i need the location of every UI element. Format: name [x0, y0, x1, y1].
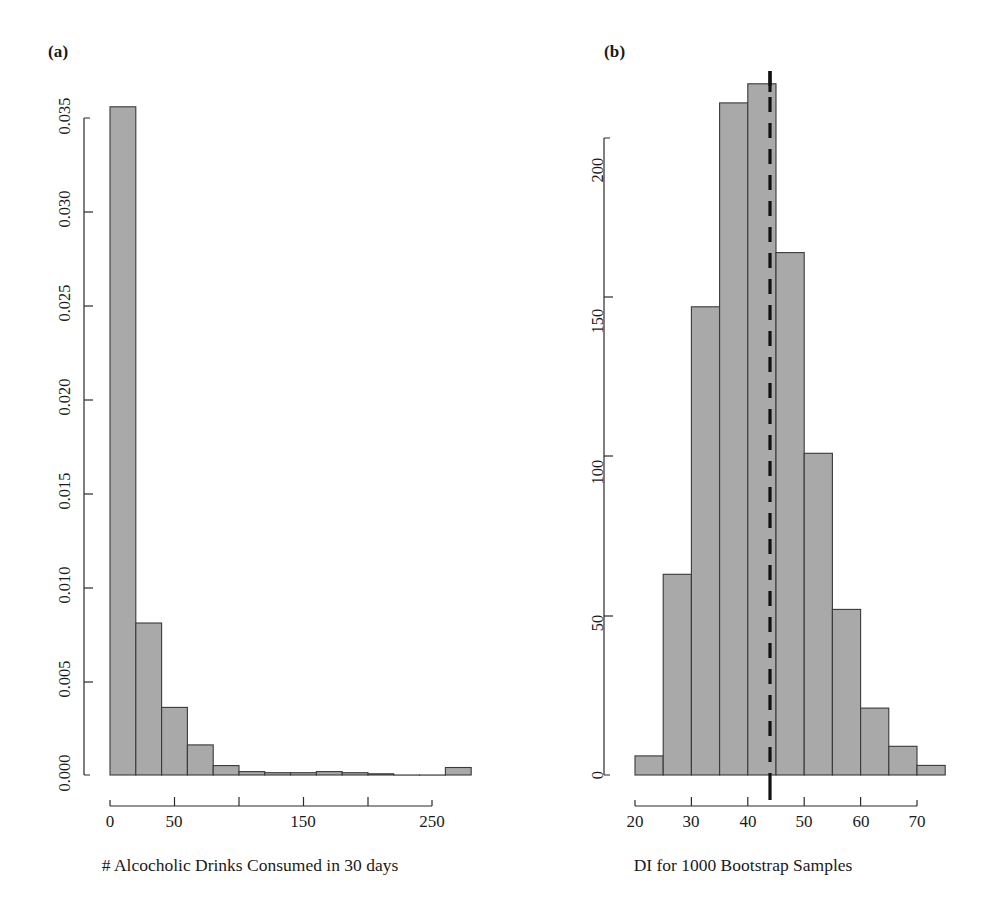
panel-b-y-axis: [604, 138, 613, 775]
panel-a-xtick-1: 50: [144, 812, 204, 832]
panel-b-plot: [500, 0, 986, 913]
figure-two-panel-histograms: (a) 0.000 0.005 0.010 0.015 0.020 0.025 …: [0, 0, 986, 913]
panel-a-bar-8: [316, 772, 342, 775]
panel-a-bar-5: [239, 772, 265, 775]
panel-a-bars: [110, 107, 471, 775]
panel-a-bar-13: [445, 768, 471, 776]
panel-a-xlabel: # Alcocholic Drinks Consumed in 30 days: [0, 855, 500, 876]
panel-a-bar-3: [187, 745, 213, 775]
panel-a-bar-4: [213, 766, 239, 775]
panel-a-bar-7: [291, 773, 317, 775]
panel-b-bars: [635, 84, 945, 775]
panel-b-bar-10: [917, 765, 945, 775]
panel-a-y-axis: [84, 118, 93, 775]
panel-b-xtick-2: 40: [718, 812, 778, 832]
panel-a-bar-6: [265, 773, 291, 775]
panel-b-x-axis: [635, 797, 917, 806]
panel-b-xtick-0: 20: [605, 812, 665, 832]
panel-b-bar-4: [748, 84, 776, 775]
panel-b-bar-2: [691, 307, 719, 775]
panel-b-bar-3: [720, 103, 748, 775]
panel-b-bar-0: [635, 756, 663, 775]
panel-b-xlabel: DI for 1000 Bootstrap Samples: [500, 855, 986, 876]
panel-a-bar-1: [136, 623, 162, 775]
panel-b-bar-9: [889, 746, 917, 775]
panel-b-bar-5: [776, 253, 804, 775]
panel-a-xtick-5: 250: [402, 812, 462, 832]
panel-b-bar-7: [832, 609, 860, 775]
panel-a-bar-10: [368, 774, 394, 775]
panel-b-xtick-1: 30: [661, 812, 721, 832]
panel-b-xtick-4: 60: [831, 812, 891, 832]
panel-a-xtick-0: 0: [80, 812, 140, 832]
panel-b-xtick-3: 50: [774, 812, 834, 832]
panel-b-bar-6: [804, 453, 832, 775]
panel-a-bar-2: [162, 707, 188, 775]
panel-b-xtick-5: 70: [887, 812, 947, 832]
panel-a-x-axis: [110, 797, 432, 806]
panel-a-bar-0: [110, 107, 136, 775]
panel-b-bar-1: [663, 574, 691, 775]
panel-b-bar-8: [861, 708, 889, 775]
panel-b: (b) 0 50 100 150 200: [500, 0, 986, 913]
panel-a: (a) 0.000 0.005 0.010 0.015 0.020 0.025 …: [0, 0, 500, 913]
panel-a-plot: [0, 0, 500, 913]
panel-a-xtick-3: 150: [273, 812, 333, 832]
panel-a-bar-9: [342, 773, 368, 775]
